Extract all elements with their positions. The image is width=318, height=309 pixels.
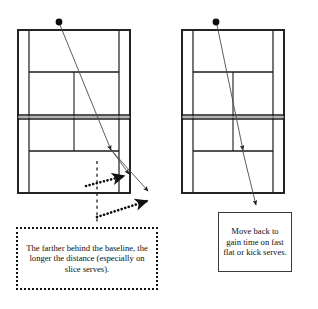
diagram-stage: The farther behind the baseline, the lon… <box>0 0 318 309</box>
left-court-group <box>18 19 148 222</box>
left-long-distance-dotted-arrow <box>97 201 147 217</box>
caption-left-text: The farther behind the baseline, the lon… <box>23 243 151 275</box>
left-server-ball-dot <box>56 19 63 26</box>
caption-move-back: Move back to gain time on fast flat or k… <box>218 212 292 272</box>
right-court-group <box>182 19 284 205</box>
caption-right-text: Move back to gain time on fast flat or k… <box>223 226 287 258</box>
caption-slice-serve-distance: The farther behind the baseline, the lon… <box>16 227 158 290</box>
right-server-ball-dot <box>213 19 220 26</box>
